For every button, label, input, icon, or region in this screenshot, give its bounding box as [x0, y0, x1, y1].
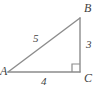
vertex-label-a: A: [0, 65, 7, 77]
hypotenuse-line: [8, 18, 80, 72]
side-label-base-leg: 4: [41, 76, 47, 87]
vertex-label-c: C: [84, 72, 92, 84]
vertex-label-b: B: [84, 2, 91, 14]
side-label-hypotenuse: 5: [33, 33, 39, 44]
right-triangle-figure: B C A 5 3 4: [0, 0, 104, 90]
side-label-vertical-leg: 3: [86, 39, 92, 50]
right-angle-marker-icon: [72, 64, 80, 72]
